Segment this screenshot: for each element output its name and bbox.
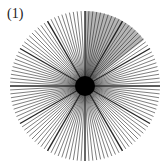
center-hub [75, 76, 95, 96]
radial-star-diagram [0, 0, 167, 167]
